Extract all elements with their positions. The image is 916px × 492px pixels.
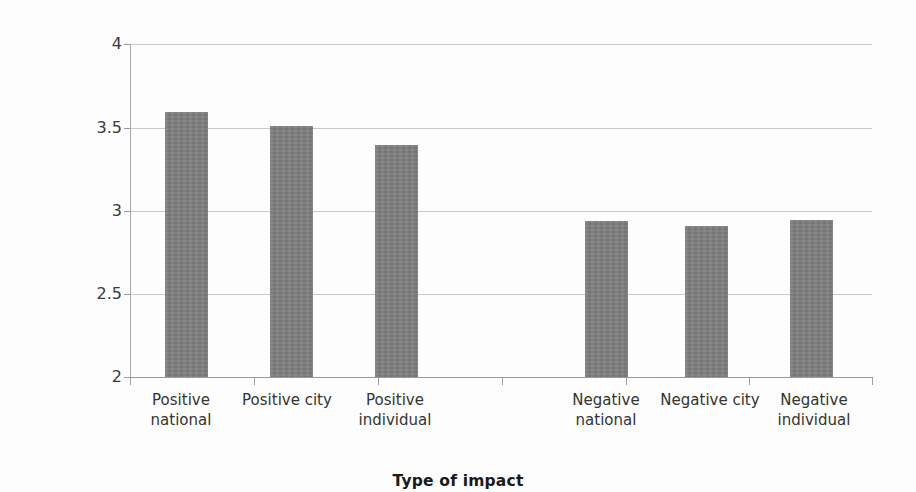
x-tick-mark-5 bbox=[749, 378, 750, 385]
x-category-label-negative-city: Negative city bbox=[655, 390, 765, 410]
x-category-label-positive-individual: Positive individual bbox=[340, 390, 450, 430]
bar-negative-individual bbox=[790, 220, 833, 377]
bar-positive-individual bbox=[375, 145, 418, 377]
x-tick-mark-4 bbox=[626, 378, 627, 385]
y-tick-label-4: 4 bbox=[78, 36, 122, 52]
bar-negative-national bbox=[585, 221, 628, 377]
gridline-3 bbox=[130, 211, 872, 212]
bar-negative-city bbox=[685, 226, 728, 377]
y-axis-line bbox=[130, 44, 131, 378]
gridline-4 bbox=[130, 44, 872, 45]
plot-area bbox=[130, 44, 872, 377]
gridline-2-5 bbox=[130, 294, 872, 295]
x-tick-mark-1 bbox=[254, 378, 255, 385]
y-tick-label-3-5: 3.5 bbox=[78, 120, 122, 136]
x-axis-title: Type of impact bbox=[0, 471, 916, 492]
y-tick-label-2-5: 2.5 bbox=[78, 286, 122, 302]
x-category-label-negative-individual: Negative individual bbox=[759, 390, 869, 430]
y-tick-label-3: 3 bbox=[78, 203, 122, 219]
gridline-3-5 bbox=[130, 128, 872, 129]
x-category-label-positive-city: Positive city bbox=[232, 390, 342, 410]
x-tick-mark-3 bbox=[502, 378, 503, 385]
x-category-label-negative-national: Negative national bbox=[551, 390, 661, 430]
x-category-label-positive-national: Positive national bbox=[126, 390, 236, 430]
bar-positive-city bbox=[270, 126, 313, 377]
x-tick-mark-2 bbox=[378, 378, 379, 385]
bar-positive-national bbox=[165, 112, 208, 377]
x-tick-mark-6 bbox=[872, 378, 873, 385]
bar-chart: Score (1-5) 4 3.5 3 2.5 2 Positive natio… bbox=[0, 0, 916, 492]
x-tick-mark-0 bbox=[130, 378, 131, 385]
y-tick-label-2: 2 bbox=[78, 369, 122, 385]
y-axis-tick-labels: 4 3.5 3 2.5 2 bbox=[78, 0, 122, 492]
